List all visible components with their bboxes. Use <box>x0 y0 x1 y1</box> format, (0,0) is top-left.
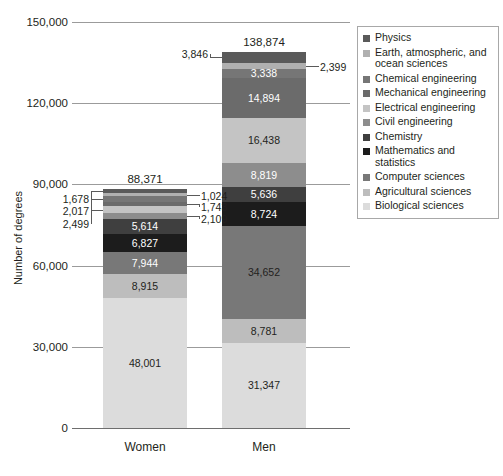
bar-segment[interactable]: 34,652 <box>222 226 306 320</box>
bar-segment[interactable]: 14,894 <box>222 78 306 118</box>
callout-leader-line <box>187 204 199 205</box>
x-category-label: Women <box>124 440 165 454</box>
stacked-bar-chart: Number of degrees 030,00060,00090,000120… <box>0 0 503 476</box>
bar-segment[interactable]: 5,636 <box>222 187 306 202</box>
legend: PhysicsEarth, atmospheric, and ocean sci… <box>357 26 499 219</box>
bar-segment[interactable]: 48,001 <box>103 298 187 428</box>
legend-item[interactable]: Chemistry <box>363 131 493 143</box>
y-tick-label: 30,000 <box>10 341 68 353</box>
bar-segment[interactable]: 7,944 <box>103 252 187 274</box>
callout-leader-line <box>210 54 211 57</box>
callout-leader-line <box>306 66 318 67</box>
legend-item-label: Computer sciences <box>375 171 465 183</box>
legend-item[interactable]: Biological sciences <box>363 200 493 212</box>
callout-leader-line <box>91 210 92 224</box>
legend-item[interactable]: Mathematics and statistics <box>363 145 493 168</box>
bar-segment[interactable] <box>103 206 187 213</box>
segment-callout-label: 3,846 <box>182 48 208 60</box>
callout-leader-line <box>91 191 92 199</box>
callout-leader-line <box>187 216 199 217</box>
legend-item-label: Chemistry <box>375 131 422 143</box>
bar-segment[interactable]: 6,827 <box>103 234 187 252</box>
legend-item-label: Biological sciences <box>375 200 464 212</box>
x-axis-line <box>72 428 350 429</box>
legend-swatch-icon <box>363 90 370 97</box>
segment-callout-label: 2,109 <box>201 213 227 225</box>
legend-item[interactable]: Mechanical engineering <box>363 87 493 99</box>
bar-segment[interactable] <box>103 193 187 196</box>
legend-item[interactable]: Civil engineering <box>363 116 493 128</box>
bar-segment[interactable] <box>222 52 306 62</box>
legend-item[interactable]: Computer sciences <box>363 171 493 183</box>
callout-leader-line <box>91 191 103 192</box>
x-category-label: Men <box>252 440 275 454</box>
legend-swatch-icon <box>363 203 370 210</box>
legend-item[interactable]: Chemical engineering <box>363 73 493 85</box>
legend-item-label: Electrical engineering <box>375 102 475 114</box>
bar-segment[interactable]: 16,438 <box>222 118 306 162</box>
segment-callout-label: 1,678 <box>63 193 89 205</box>
callout-leader-line <box>318 66 319 67</box>
legend-swatch-icon <box>363 134 370 141</box>
bar-segment[interactable]: 3,338 <box>222 69 306 78</box>
bar-segment[interactable] <box>103 189 187 194</box>
callout-leader-line <box>91 199 103 200</box>
legend-item[interactable]: Agricultural sciences <box>363 186 493 198</box>
y-tick-label: 60,000 <box>10 260 68 272</box>
legend-swatch-icon <box>363 105 370 112</box>
bar-segment[interactable]: 8,724 <box>222 202 306 226</box>
y-tick-label: 0 <box>10 422 68 434</box>
legend-item[interactable]: Earth, atmospheric, and ocean sciences <box>363 47 493 70</box>
callout-leader-line <box>199 216 200 219</box>
bar-women[interactable]: 48,0018,9157,9446,8275,614 <box>103 22 187 428</box>
y-tick-label: 150,000 <box>10 16 68 28</box>
legend-item-label: Agricultural sciences <box>375 186 471 198</box>
legend-item-label: Earth, atmospheric, and ocean sciences <box>375 47 493 70</box>
y-tick-label: 120,000 <box>10 97 68 109</box>
bar-segment[interactable]: 31,347 <box>222 343 306 428</box>
legend-item-label: Mathematics and statistics <box>375 145 493 168</box>
bar-segment[interactable] <box>103 213 187 219</box>
legend-swatch-icon <box>363 50 370 57</box>
callout-leader-line <box>210 57 222 58</box>
bar-men[interactable]: 31,3478,78134,6528,7245,6368,81916,43814… <box>222 22 306 428</box>
legend-item-label: Civil engineering <box>375 116 453 128</box>
y-tick-label: 90,000 <box>10 178 68 190</box>
bar-segment[interactable]: 8,819 <box>222 163 306 187</box>
callout-leader-line <box>199 204 200 207</box>
bar-segment[interactable] <box>103 202 187 207</box>
segment-callout-label: 2,017 <box>63 205 89 217</box>
callout-leader-line <box>91 210 103 211</box>
legend-swatch-icon <box>363 119 370 126</box>
bar-segment[interactable]: 8,915 <box>103 274 187 298</box>
segment-callout-label: 2,399 <box>320 61 346 73</box>
bar-segment[interactable] <box>103 196 187 201</box>
segment-callout-label: 1,743 <box>201 201 227 213</box>
segment-callout-label: 2,499 <box>63 218 89 230</box>
callout-leader-line <box>187 195 199 196</box>
bar-segment[interactable]: 5,614 <box>103 219 187 234</box>
legend-swatch-icon <box>363 76 370 83</box>
legend-item[interactable]: Physics <box>363 32 493 44</box>
bar-total-label: 88,371 <box>127 173 162 185</box>
legend-item[interactable]: Electrical engineering <box>363 102 493 114</box>
legend-swatch-icon <box>363 189 370 196</box>
callout-leader-line <box>199 195 200 196</box>
legend-item-label: Physics <box>375 32 411 44</box>
legend-swatch-icon <box>363 174 370 181</box>
legend-swatch-icon <box>363 148 370 155</box>
bar-segment[interactable] <box>222 63 306 69</box>
bar-total-label: 138,874 <box>243 36 285 48</box>
legend-item-label: Mechanical engineering <box>375 87 486 99</box>
legend-item-label: Chemical engineering <box>375 73 477 85</box>
bar-segment[interactable]: 8,781 <box>222 319 306 343</box>
legend-swatch-icon <box>363 35 370 42</box>
